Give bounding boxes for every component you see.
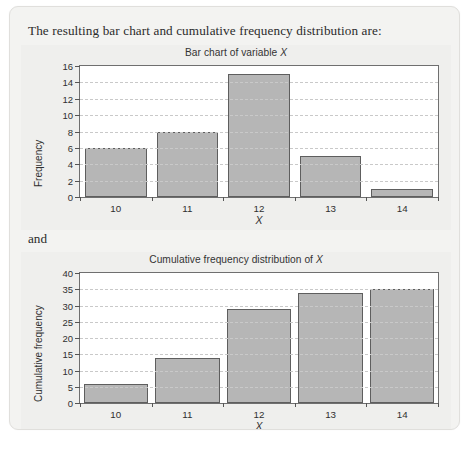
bar-chart-y-tick [75,164,80,165]
bar-chart-gridline [80,115,438,116]
bar-chart-x-tick [295,197,296,201]
bar-chart-y-tick-label: 6 [68,142,73,153]
cumulative-chart-gridline [80,338,438,339]
bar-chart-x-tick-label: 13 [295,203,367,214]
cumulative-chart-y-tick-label: 0 [68,398,73,409]
cumulative-chart-x-tick [80,403,81,407]
bar-chart-bar [371,189,433,197]
bar-chart-y-tick [75,66,80,67]
cumulative-chart-x-tick-label: 11 [152,409,224,420]
bar-chart-y-tick [75,181,80,182]
cumulative-chart-gridline [80,371,438,372]
cumulative-chart-x-tick-label: 12 [223,409,295,420]
cumulative-chart-bar [227,309,291,403]
bar-chart-title-variable: X [280,47,287,58]
bar-chart-y-tick-label: 4 [68,159,73,170]
bar-chart-x-tick [80,197,81,201]
connector-paragraph: and [28,231,47,247]
cumulative-chart-y-tick [75,306,80,307]
intro-paragraph: The resulting bar chart and cumulative f… [28,23,382,39]
bar-chart-y-axis-title: Frequency [33,140,44,187]
cumulative-chart-y-tick [75,289,80,290]
bar-chart-y-tick-label: 10 [62,110,73,121]
cumulative-chart-gridline [80,289,438,290]
bar-chart-y-tick-label: 8 [68,126,73,137]
bar-chart-x-tick-label: 12 [223,203,295,214]
cumulative-chart-title-text: Cumulative frequency distribution of [149,254,316,265]
figure-card: The resulting bar chart and cumulative f… [9,6,460,430]
cumulative-chart-y-tick-label: 30 [62,300,73,311]
cumulative-chart-title-variable: X [316,254,323,265]
cumulative-chart-x-tick [295,403,296,407]
bar-chart-y-tick [75,132,80,133]
cumulative-chart-y-tick-label: 20 [62,333,73,344]
cumulative-chart-x-tick-label: 13 [295,409,367,420]
cumulative-chart-x-tick [438,403,439,407]
cumulative-chart-panel: Cumulative frequency distribution of X C… [21,252,451,430]
bar-chart-gridline [80,148,438,149]
bar-chart-x-tick-label: 14 [366,203,438,214]
cumulative-chart-x-tick-label: 10 [80,409,152,420]
cumulative-chart-y-tick-label: 25 [62,316,73,327]
bar-chart-x-axis-title: X [79,214,439,226]
cumulative-chart-gridline [80,322,438,323]
bar-chart-y-tick [75,99,80,100]
cumulative-chart-x-tick [366,403,367,407]
bar-chart-gridline [80,164,438,165]
cumulative-chart-gridline [80,387,438,388]
cumulative-chart-x-tick [223,403,224,407]
bar-chart-y-tick-label: 2 [68,175,73,186]
cumulative-chart-y-tick-label: 35 [62,284,73,295]
bar-chart-title: Bar chart of variable X [21,47,451,58]
cumulative-chart-gridline [80,354,438,355]
cumulative-chart-plot-area: 1011121314 4035302520151050 [79,272,439,404]
cumulative-chart-y-tick [75,338,80,339]
page-root: The resulting bar chart and cumulative f… [0,0,468,449]
bar-chart-x-tick [152,197,153,201]
cumulative-chart-title: Cumulative frequency distribution of X [21,254,451,265]
bar-chart-bar [85,148,147,197]
cumulative-chart-y-tick-label: 40 [62,268,73,279]
bar-chart-x-tick [438,197,439,201]
bar-chart-y-tick-label: 16 [62,61,73,72]
bar-chart-panel: Bar chart of variable X Frequency 101112… [21,45,451,230]
bar-chart-y-tick [75,115,80,116]
cumulative-chart-x-axis-title: X [79,420,439,430]
bar-chart-title-text: Bar chart of variable [185,47,280,58]
cumulative-chart-y-tick [75,371,80,372]
bar-chart-y-tick [75,82,80,83]
cumulative-chart-y-tick-label: 15 [62,349,73,360]
bar-chart-y-tick-label: 14 [62,77,73,88]
cumulative-chart-y-tick [75,354,80,355]
bar-chart-bar [300,156,362,197]
cumulative-chart-bar [155,358,219,404]
cumulative-chart-gridline [80,306,438,307]
bar-chart-x-tick [366,197,367,201]
cumulative-chart-y-tick [75,387,80,388]
bar-chart-y-tick-label: 0 [68,192,73,203]
bar-chart-gridline [80,99,438,100]
bar-chart-y-tick-label: 12 [62,93,73,104]
cumulative-chart-x-tick [152,403,153,407]
bar-chart-x-tick [223,197,224,201]
cumulative-chart-y-tick [75,273,80,274]
cumulative-chart-x-tick-labels: 1011121314 [80,409,438,420]
bar-chart-gridline [80,181,438,182]
cumulative-chart-y-tick-label: 10 [62,365,73,376]
bar-chart-gridline [80,132,438,133]
cumulative-chart-y-tick [75,322,80,323]
bar-chart-x-tick-label: 10 [80,203,152,214]
cumulative-chart-y-tick-label: 5 [68,381,73,392]
bar-chart-gridline [80,82,438,83]
bar-chart-y-tick [75,148,80,149]
cumulative-chart-y-axis-title: Cumulative frequency [33,305,44,402]
bar-chart-plot-area: 1011121314 1614121086420 [79,65,439,198]
bar-chart-bar [228,74,290,197]
cumulative-chart-x-tick-label: 14 [366,409,438,420]
bar-chart-x-tick-labels: 1011121314 [80,203,438,214]
bar-chart-x-tick-label: 11 [152,203,224,214]
